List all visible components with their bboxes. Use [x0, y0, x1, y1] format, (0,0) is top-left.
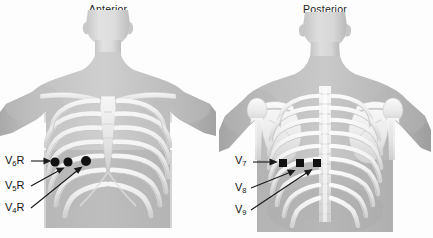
electrode-label-v6r: V6R: [5, 155, 24, 166]
posterior-torso-illustration: [217, 0, 433, 238]
electrode-label-v8: V8: [235, 182, 247, 193]
electrode-label-v9: V9: [235, 204, 247, 215]
spine: [319, 86, 331, 222]
panel-anterior: Anterior: [0, 0, 216, 238]
panel-posterior: Posterior: [217, 0, 433, 238]
electrode-label-v4r: V4R: [5, 202, 24, 213]
ecg-electrode-placement-figure: Anterior: [0, 0, 433, 238]
anterior-torso-illustration: [0, 0, 216, 238]
electrode-label-v5r: V5R: [5, 180, 24, 191]
electrode-label-v7: V7: [235, 155, 247, 166]
